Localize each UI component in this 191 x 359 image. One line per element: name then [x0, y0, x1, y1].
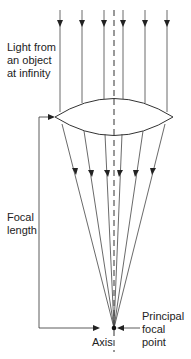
label-line: Light from	[7, 41, 56, 54]
label-line: focal	[142, 323, 184, 336]
label-line: point	[142, 336, 184, 349]
label-principal-focal-point: Principal focal point	[142, 310, 184, 349]
label-line: length	[7, 224, 37, 237]
bracket-arrow-bottom-icon	[93, 325, 100, 331]
label-line: at infinity	[7, 67, 56, 80]
label-line: an object	[7, 54, 56, 67]
label-line: Focal	[7, 211, 37, 224]
label-focal-length: Focal length	[7, 211, 37, 237]
focal-point-arrow-icon	[117, 325, 124, 331]
label-line: Principal	[142, 310, 184, 323]
label-light-source: Light from an object at infinity	[7, 41, 56, 80]
focal-point-dot	[112, 326, 117, 331]
label-axis: Axis	[92, 336, 113, 349]
bracket-arrow-top-icon	[48, 114, 55, 120]
